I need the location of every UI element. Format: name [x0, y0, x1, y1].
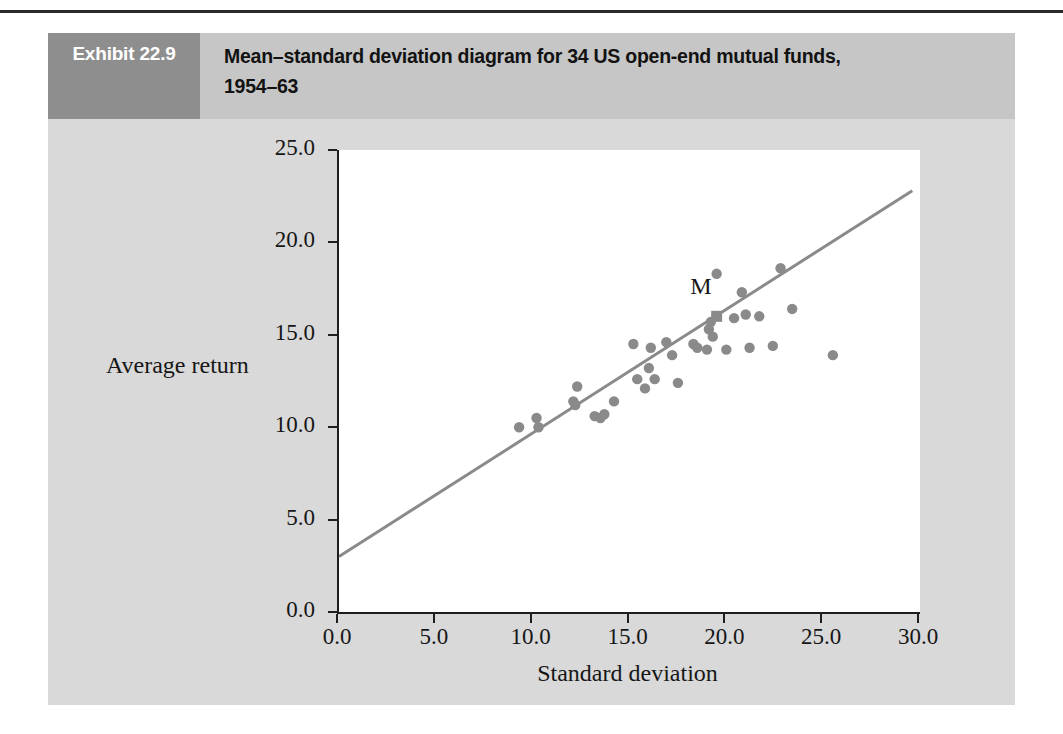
- scatter-point: [599, 409, 609, 419]
- scatter-point: [533, 422, 543, 432]
- scatter-point: [673, 378, 683, 388]
- x-tick-label: 15.0: [583, 624, 673, 650]
- scatter-point: [649, 374, 659, 384]
- x-tick-mark: [336, 614, 338, 623]
- scatter-point: [787, 304, 797, 314]
- exhibit-title: Mean–standard deviation diagram for 34 U…: [224, 41, 864, 101]
- scatter-point: [644, 363, 654, 373]
- scatter-point: [711, 269, 721, 279]
- capital-market-line: [339, 191, 912, 557]
- scatter-point: [609, 396, 619, 406]
- scatter-points: [514, 263, 838, 432]
- scatter-point: [828, 350, 838, 360]
- scatter-point: [646, 343, 656, 353]
- scatter-point: [692, 343, 702, 353]
- scatter-point: [721, 344, 731, 354]
- x-tick-mark: [530, 614, 532, 623]
- x-tick-mark: [820, 614, 822, 623]
- exhibit-number-label: Exhibit 22.9: [72, 43, 175, 65]
- scatter-point: [628, 339, 638, 349]
- x-tick-label: 30.0: [873, 624, 963, 650]
- scatter-point: [708, 331, 718, 341]
- y-tick-mark: [328, 426, 337, 428]
- x-tick-mark: [917, 614, 919, 623]
- scatter-point: [514, 422, 524, 432]
- y-tick-label: 15.0: [227, 320, 315, 346]
- scatter-point: [632, 374, 642, 384]
- x-tick-mark: [627, 614, 629, 623]
- exhibit-number-box: Exhibit 22.9: [48, 33, 200, 119]
- plot-box: [337, 150, 920, 614]
- scatter-point: [661, 337, 671, 347]
- x-tick-label: 0.0: [292, 624, 382, 650]
- y-tick-mark: [328, 241, 337, 243]
- page-canvas: Exhibit 22.9 Mean–standard deviation dia…: [0, 0, 1063, 734]
- scatter-point: [640, 383, 650, 393]
- y-tick-mark: [328, 519, 337, 521]
- scatter-point: [570, 400, 580, 410]
- scatter-point: [754, 311, 764, 321]
- trend-line: [339, 191, 912, 557]
- y-axis-title: Average return: [106, 352, 306, 379]
- y-tick-mark: [328, 334, 337, 336]
- scatter-point: [729, 313, 739, 323]
- scatter-point: [702, 344, 712, 354]
- market-portfolio-marker: [711, 311, 722, 322]
- x-tick-mark: [433, 614, 435, 623]
- scatter-point: [775, 263, 785, 273]
- scatter-point: [744, 343, 754, 353]
- scatter-point: [572, 381, 582, 391]
- annotation-label-m: M: [690, 273, 711, 300]
- x-axis-title: Standard deviation: [337, 660, 918, 687]
- page-top-rule: [0, 10, 1063, 13]
- x-tick-mark: [723, 614, 725, 623]
- y-tick-mark: [328, 149, 337, 151]
- scatter-point: [741, 309, 751, 319]
- y-tick-label: 25.0: [227, 135, 315, 161]
- scatter-plot-svg: [339, 150, 920, 612]
- scatter-point: [667, 350, 677, 360]
- exhibit-panel: Exhibit 22.9 Mean–standard deviation dia…: [48, 33, 1015, 705]
- scatter-point: [737, 287, 747, 297]
- x-tick-label: 10.0: [486, 624, 576, 650]
- scatter-point: [768, 341, 778, 351]
- y-tick-label: 5.0: [227, 505, 315, 531]
- y-tick-label: 20.0: [227, 227, 315, 253]
- y-tick-label: 0.0: [227, 597, 315, 623]
- exhibit-title-box: Mean–standard deviation diagram for 34 U…: [200, 33, 1015, 119]
- x-tick-label: 25.0: [776, 624, 866, 650]
- annotation-marker-square: [711, 311, 722, 322]
- y-tick-label: 10.0: [227, 412, 315, 438]
- chart-area: Average return 0.05.010.015.020.025.0 0.…: [48, 119, 1015, 705]
- scatter-point: [531, 413, 541, 423]
- x-tick-label: 20.0: [679, 624, 769, 650]
- y-tick-mark: [328, 611, 337, 613]
- x-tick-label: 5.0: [389, 624, 479, 650]
- exhibit-header: Exhibit 22.9 Mean–standard deviation dia…: [48, 33, 1015, 119]
